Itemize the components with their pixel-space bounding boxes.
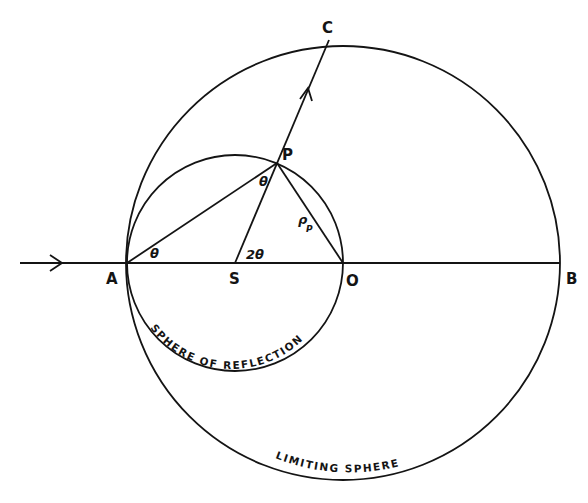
point-label-O: O	[346, 272, 359, 290]
limiting-sphere-label: LIMITING SPHERE	[274, 449, 401, 475]
point-label-P: P	[282, 146, 293, 164]
point-label-C: C	[322, 19, 333, 37]
vector-label-rho-subscript: P	[306, 224, 313, 234]
point-label-B: B	[566, 270, 577, 288]
point-label-S: S	[229, 270, 240, 288]
sphere-of-reflection-label: SPHERE OF REFLECTION	[148, 322, 305, 371]
angle-label-theta-at-A: θ	[150, 246, 159, 261]
angle-label-2theta-at-S: 2θ	[246, 247, 264, 262]
angle-label-theta-at-P: θ	[259, 174, 268, 189]
ewald-sphere-diagram: A S O B P C θ θ 2θ ρ P SPHERE OF REFLECT…	[0, 0, 588, 503]
point-label-A: A	[106, 270, 118, 288]
vector-rho-p-line	[277, 163, 343, 263]
